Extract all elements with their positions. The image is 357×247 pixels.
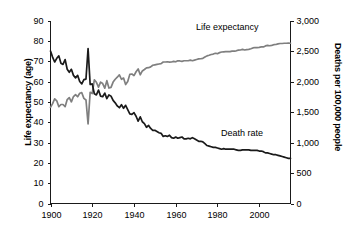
series-annotation-death-rate: Death rate <box>221 128 263 138</box>
axis-tick-marks <box>48 22 294 207</box>
series-path-life-expectancy <box>51 43 291 124</box>
data-series-lines <box>51 43 291 158</box>
series-annotation-life-expectancy: Life expectancy <box>196 22 259 32</box>
chart-figure: Life expectancy (age) Deaths per 100,000… <box>0 0 357 247</box>
plot-area <box>0 0 357 247</box>
